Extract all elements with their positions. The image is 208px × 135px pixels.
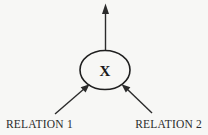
output-arrow: [102, 4, 109, 52]
relation-1-arrow-line: [55, 89, 85, 115]
relation-2-label: RELATION 2: [135, 118, 202, 130]
output-arrowhead-icon: [102, 4, 109, 15]
relation-2-arrow-line: [127, 89, 153, 114]
relation-1-arrow: [55, 84, 90, 114]
relation-1-label: RELATION 1: [6, 118, 73, 130]
relation-2-arrow: [122, 84, 153, 113]
diagram-canvas: X RELATION 1 RELATION 2: [0, 0, 208, 135]
relationship-diagram: X RELATION 1 RELATION 2: [0, 0, 208, 135]
entity-node-label: X: [100, 63, 111, 79]
